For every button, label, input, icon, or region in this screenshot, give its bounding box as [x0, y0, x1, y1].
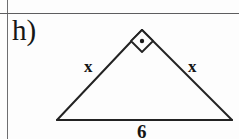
- triangle-left-leg: [57, 30, 142, 120]
- left-leg-length-label: x: [84, 58, 93, 75]
- base-length-label: 6: [137, 122, 147, 139]
- right-angle-dot-icon: [140, 39, 144, 43]
- triangle-diagram: [0, 0, 239, 139]
- triangle-right-leg: [142, 30, 232, 120]
- right-leg-length-label: x: [188, 58, 197, 75]
- worksheet-figure-canvas: h) x x 6: [0, 0, 239, 139]
